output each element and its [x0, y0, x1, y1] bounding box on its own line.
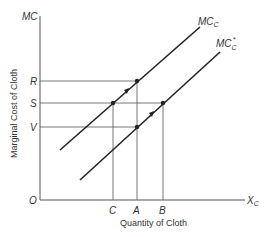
y-tick-s: S: [30, 98, 37, 109]
point-a-r: [135, 79, 139, 83]
y-axis-label: MC: [22, 11, 38, 22]
mc-c-star-label: MCC*: [216, 36, 238, 51]
point-a-v: [135, 125, 139, 129]
origin-label: O: [29, 195, 37, 206]
point-b-s: [161, 101, 165, 105]
x-tick-a: A: [132, 205, 140, 216]
x-tick-c: C: [109, 205, 117, 216]
y-tick-r: R: [30, 76, 37, 87]
mc-c-label: MCC: [198, 16, 220, 28]
x-tick-b: B: [159, 205, 166, 216]
y-tick-v: V: [30, 122, 38, 133]
point-c-s: [111, 101, 115, 105]
x-axis-title: Quantity of Cloth: [120, 218, 187, 228]
y-axis-title: Marginal Cost of Cloth: [9, 69, 19, 158]
marginal-cost-diagram: MC O R S V C A B XC Quantity of Cloth Ma…: [0, 0, 270, 237]
x-axis-label: XC: [246, 195, 260, 207]
